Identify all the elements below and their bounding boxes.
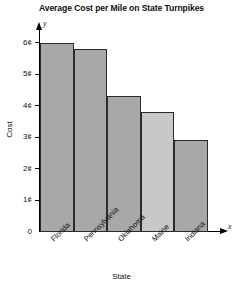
y-tick-label: 5¢ <box>8 69 32 78</box>
x-axis-variable-label: x <box>228 222 232 231</box>
x-axis-title: State <box>0 272 243 281</box>
y-tick-label: 0 <box>8 227 32 236</box>
y-tick-label: 1¢ <box>8 195 32 204</box>
bar <box>174 140 208 231</box>
y-axis-arrow-icon <box>36 22 42 30</box>
plot-area: y x 01¢2¢3¢4¢5¢6¢ FloridaPennsylvaniaOkl… <box>0 0 243 290</box>
bar <box>74 49 108 232</box>
y-axis-title: Cost <box>5 110 14 150</box>
y-tick-label: 4¢ <box>8 101 32 110</box>
bar-chart: Average Cost per Mile on State Turnpikes… <box>0 0 243 290</box>
y-axis-variable-label: y <box>43 19 47 28</box>
y-tick-label: 2¢ <box>8 164 32 173</box>
bar <box>141 112 175 232</box>
bar <box>40 43 74 232</box>
x-axis-arrow-icon <box>220 228 228 234</box>
y-tick-label: 6¢ <box>8 38 32 47</box>
